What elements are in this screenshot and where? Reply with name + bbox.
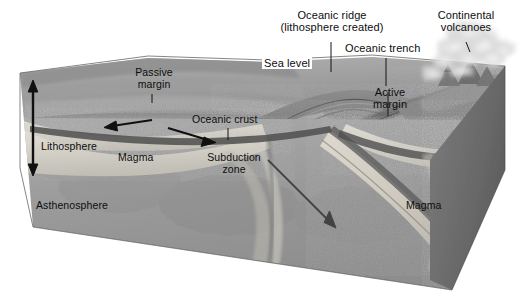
- label-active-margin-line1: Active: [368, 86, 412, 98]
- label-passive-margin: Passive margin: [126, 67, 182, 91]
- label-oceanic-ridge: Oceanic ridge (lithosphere created): [268, 9, 396, 34]
- label-active-margin: Active margin: [368, 86, 412, 111]
- label-magma-right: Magma: [406, 200, 442, 212]
- label-passive-margin-line2: margin: [126, 79, 182, 91]
- label-oceanic-trench: Oceanic trench: [345, 42, 420, 54]
- label-asthenosphere: Asthenosphere: [36, 200, 108, 212]
- label-continental-volcanoes: Continental volcanoes: [418, 9, 514, 34]
- label-lithosphere: Lithosphere: [41, 141, 97, 153]
- label-sea-level: Sea level: [262, 57, 312, 69]
- label-active-margin-line2: margin: [368, 98, 412, 110]
- label-passive-margin-line1: Passive: [126, 67, 182, 79]
- label-oceanic-ridge-line1: Oceanic ridge: [268, 9, 396, 21]
- label-subduction-zone-line1: Subduction: [203, 152, 265, 164]
- label-oceanic-ridge-line2: (lithosphere created): [268, 21, 396, 33]
- label-magma-left: Magma: [118, 152, 154, 164]
- block-right-face: [430, 66, 505, 290]
- plate-tectonics-diagram: Oceanic ridge (lithosphere created) Cont…: [0, 0, 520, 298]
- label-continental-volcanoes-line1: Continental: [418, 9, 514, 21]
- label-oceanic-crust: Oceanic crust: [192, 114, 258, 126]
- label-subduction-zone: Subduction zone: [203, 152, 265, 176]
- label-continental-volcanoes-line2: volcanoes: [418, 21, 514, 33]
- label-subduction-zone-line2: zone: [203, 164, 265, 176]
